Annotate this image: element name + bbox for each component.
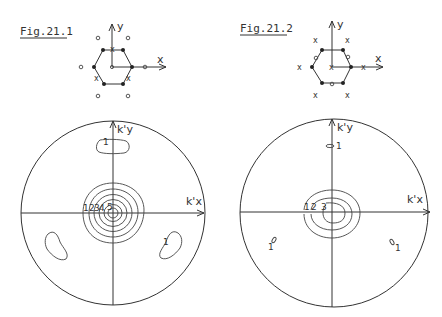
x-axis-label: x: [157, 53, 164, 66]
center-cross: x: [329, 63, 334, 72]
svg-text:x: x: [313, 36, 318, 45]
x-axis-label: x: [375, 52, 382, 65]
contour-labels: 1 2 3 4 5: [83, 202, 113, 213]
lattice-diagram: y x x xx xx xx: [297, 18, 383, 100]
svg-text:1: 1: [395, 243, 401, 253]
svg-text:1: 1: [103, 137, 109, 147]
kx-axis-label: k'x: [186, 195, 202, 208]
svg-text:x: x: [345, 36, 350, 45]
svg-text:x: x: [126, 74, 131, 83]
svg-text:5: 5: [107, 202, 113, 212]
svg-text:x: x: [110, 45, 115, 54]
y-axis-label: y: [117, 20, 124, 33]
svg-text:x: x: [361, 63, 366, 72]
figure-title: Fig.21.1: [20, 25, 73, 38]
svg-text:3: 3: [321, 202, 327, 212]
figure-21-1: Fig.21.1 y x x x x: [20, 20, 205, 305]
contour-labels: 1 2 3: [304, 202, 327, 212]
svg-text:1: 1: [304, 202, 310, 212]
boundary-circle: [240, 119, 428, 307]
figure-21-2: Fig.21.2 y x x xx xx xx: [240, 18, 430, 307]
svg-text:1: 1: [163, 237, 169, 247]
svg-text:x: x: [94, 74, 99, 83]
ky-axis-label: k'y: [337, 121, 353, 134]
svg-text:x: x: [313, 91, 318, 100]
figure-canvas: Fig.21.1 y x x x x: [0, 0, 442, 317]
ky-axis-label: k'y: [117, 123, 133, 136]
svg-text:x: x: [297, 63, 302, 72]
y-axis-label: y: [337, 18, 344, 31]
svg-text:1: 1: [83, 203, 89, 213]
svg-text:1: 1: [336, 141, 342, 151]
svg-text:1: 1: [268, 242, 274, 252]
svg-text:4: 4: [99, 203, 105, 213]
contour-plot: k'y k'x 1 2 3 1 1 1: [240, 119, 430, 307]
svg-text:x: x: [345, 91, 350, 100]
contour-plot: k'y k'x 1 2 3 4 5 1: [21, 121, 205, 305]
lattice-diagram: y x x x x: [79, 20, 166, 98]
figure-title: Fig.21.2: [240, 22, 293, 35]
svg-text:2: 2: [311, 202, 317, 212]
island-contours: 1 1 1: [268, 141, 401, 253]
kx-axis-label: k'x: [407, 193, 423, 206]
